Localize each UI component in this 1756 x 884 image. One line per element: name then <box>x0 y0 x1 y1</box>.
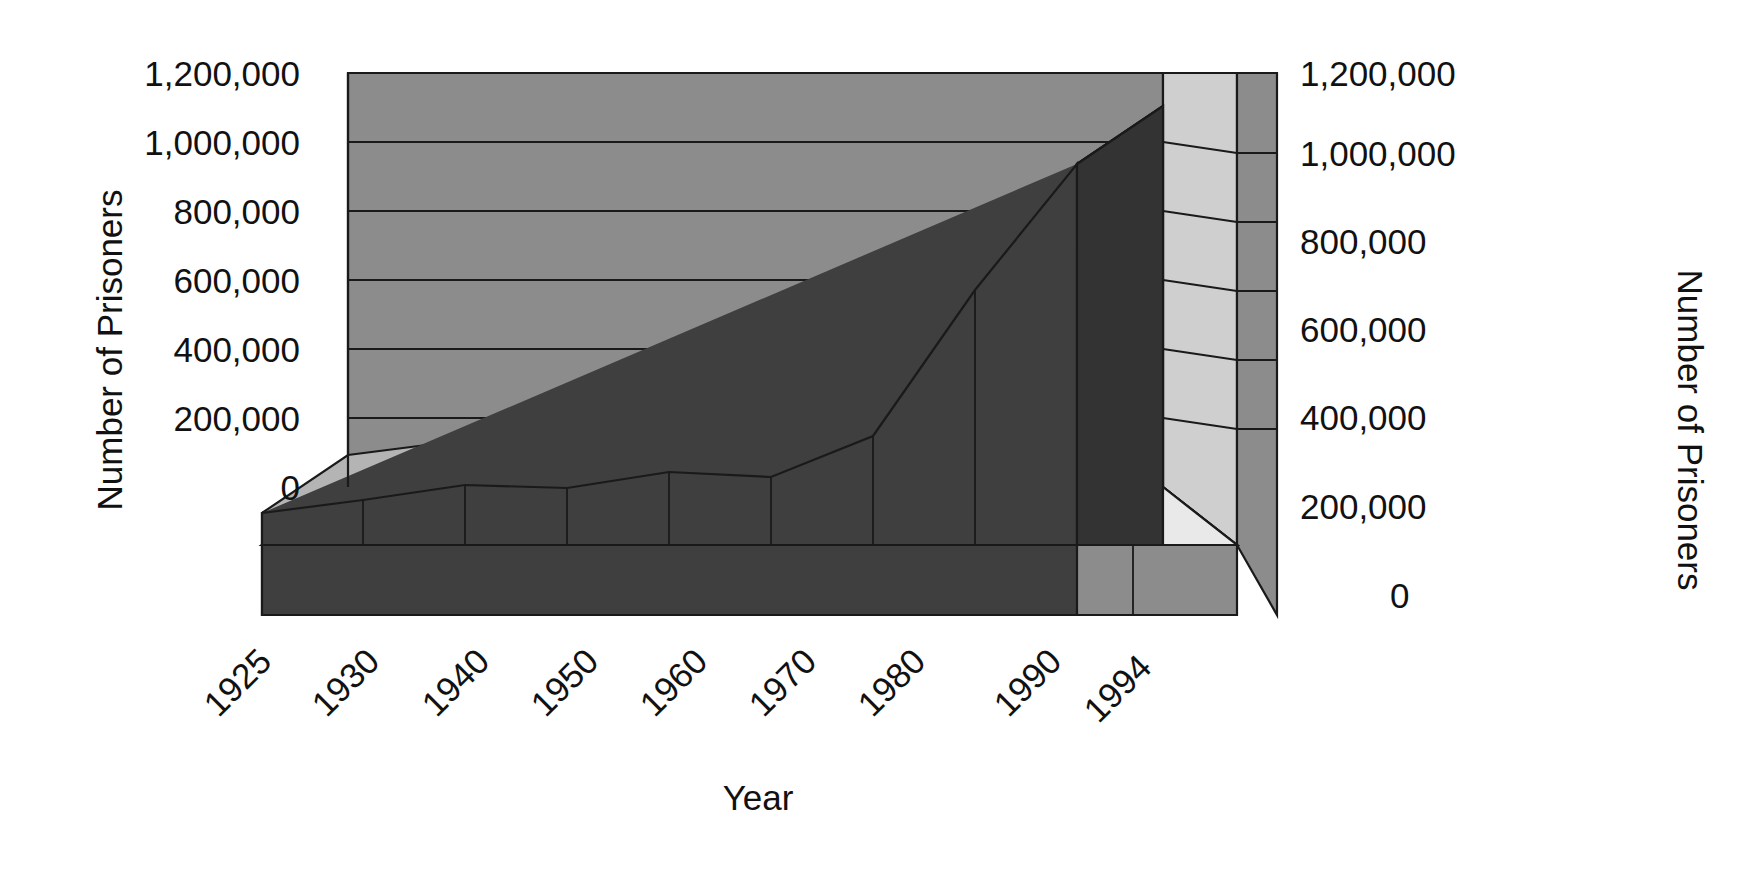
y-tick-left-1200000: 1,200,000 <box>20 56 300 91</box>
y-axis-title-right: Number of Prisoners <box>1670 260 1710 600</box>
y-tick-right-800000: 800,000 <box>1300 224 1427 259</box>
y-tick-right-200000: 200,000 <box>1300 489 1427 524</box>
y-tick-left-200000: 200,000 <box>20 401 300 436</box>
y-tick-right-1200000: 1,200,000 <box>1300 56 1456 91</box>
plot-right-edge-slab <box>1237 73 1277 615</box>
y-tick-right-0: 0 <box>1390 578 1409 613</box>
y-tick-left-0: 0 <box>20 470 300 505</box>
y-axis-title-left: Number of Prisoners <box>90 180 130 520</box>
y-tick-left-1000000: 1,000,000 <box>20 125 300 160</box>
x-axis-title: Year <box>648 778 868 818</box>
plot-right-wall <box>1163 73 1237 545</box>
y-tick-right-600000: 600,000 <box>1300 312 1427 347</box>
chart-canvas: .ln{stroke:#1a1a1a;stroke-width:2.2;fill… <box>0 0 1756 884</box>
y-tick-left-800000: 800,000 <box>20 194 300 229</box>
y-tick-right-1000000: 1,000,000 <box>1300 136 1456 171</box>
y-tick-right-400000: 400,000 <box>1300 400 1427 435</box>
y-tick-left-600000: 600,000 <box>20 263 300 298</box>
y-tick-left-400000: 400,000 <box>20 332 300 367</box>
